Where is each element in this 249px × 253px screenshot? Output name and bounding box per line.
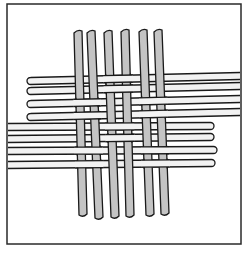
weave-overlap-edge (104, 92, 133, 93)
weave-overlap-fill (106, 134, 135, 141)
weave-overlap-edge (73, 99, 100, 100)
weave-overlap-fill (141, 147, 169, 154)
weave-overlap-edge (73, 106, 100, 107)
weave-overlap-edge (103, 75, 133, 76)
weave-overlap-fill (142, 160, 170, 167)
weave-overlap-edge (140, 110, 168, 111)
weave-overlap-edge (103, 82, 133, 83)
weave-overlap-edge (139, 104, 167, 105)
weave-overlap-fill (75, 147, 103, 154)
weave-overlap-edge (139, 97, 167, 98)
weave-overlap-fill (105, 123, 134, 130)
basket-weave-illustration (0, 0, 249, 253)
weave-overlap-fill (75, 161, 103, 168)
weave-overlap-edge (104, 85, 133, 86)
weave-overlap-edge (74, 112, 101, 113)
weave-overlap-edge (140, 117, 168, 118)
weave-overlap-edge (74, 119, 101, 120)
